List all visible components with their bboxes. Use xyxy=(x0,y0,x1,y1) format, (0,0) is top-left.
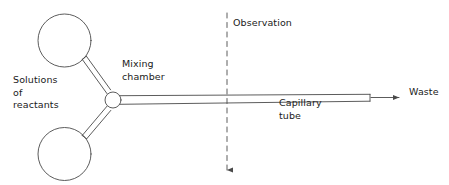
lower-inlet-tube-wall xyxy=(87,110,111,138)
capillary-tube-lower-wall xyxy=(120,101,370,104)
label-solutions-of-reactants: Solutions of reactants xyxy=(13,74,59,112)
label-capillary-tube: Capillary tube xyxy=(279,97,322,122)
diagram-canvas xyxy=(0,0,449,185)
mixing-chamber xyxy=(105,92,121,108)
lower-inlet-tube xyxy=(82,106,107,135)
lower-reactant-bulb xyxy=(38,128,91,181)
upper-inlet-tube-wall xyxy=(86,56,110,90)
capillary-tube-upper-wall xyxy=(120,94,370,95)
label-observation: Observation xyxy=(233,17,292,30)
upper-inlet-tube-cap xyxy=(82,56,86,59)
upper-inlet-tube xyxy=(82,59,107,93)
label-waste: Waste xyxy=(409,86,439,99)
flow-apparatus-diagram: Solutions of reactants Mixing chamber Ob… xyxy=(0,0,449,185)
label-mixing-chamber: Mixing chamber xyxy=(122,58,165,83)
